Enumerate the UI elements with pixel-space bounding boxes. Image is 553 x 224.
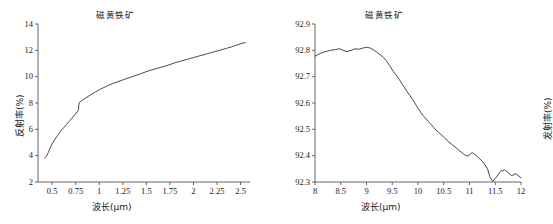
y-tick-label: 8 [29, 99, 33, 108]
x-tick-label: 11 [456, 187, 484, 196]
x-tick-label: 8 [301, 187, 329, 196]
chart-panel-reflectance: 磁黄铁矿 波长(μm) 反射率(%) 14121086420.50.7511.2… [0, 0, 265, 224]
y-tick-label: 92.4 [295, 151, 310, 160]
data-series-line-0 [45, 42, 246, 158]
data-series-line-0 [315, 47, 521, 181]
y-tick-label: 6 [29, 125, 33, 134]
y-tick-label: 92.6 [295, 99, 310, 108]
x-tick-label: 9 [353, 187, 381, 196]
x-tick-label: 2.5 [227, 187, 255, 196]
y-tick-label: 4 [29, 151, 33, 160]
x-tick-label: 8.5 [327, 187, 355, 196]
y-tick-label: 14 [25, 20, 34, 29]
y-tick-label: 12 [25, 46, 34, 55]
y-tick-label: 92.3 [295, 178, 310, 187]
x-tick-label: 10 [404, 187, 432, 196]
y-tick-label: 2 [29, 178, 33, 187]
x-tick-label: 11.5 [481, 187, 509, 196]
x-tick-label: 12 [507, 187, 535, 196]
y-tick-label: 92.5 [295, 125, 310, 134]
y-tick-label: 92.8 [295, 46, 310, 55]
x-tick-label: 10.5 [430, 187, 458, 196]
x-tick-label: 9.5 [378, 187, 406, 196]
y-tick-label: 10 [25, 72, 34, 81]
y-tick-label: 92.9 [295, 20, 310, 29]
y-tick-label: 92.7 [295, 72, 310, 81]
y-axis-label-right: 发射率(%) [544, 97, 553, 140]
chart-panel-emissivity: 磁黄铁矿 波长(μm) 发射率(%) 92.992.892.792.692.59… [265, 0, 531, 224]
